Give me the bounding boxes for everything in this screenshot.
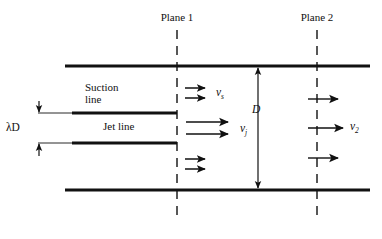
plane-2-flow-arrows bbox=[308, 99, 343, 158]
velocity-vs-label: vs bbox=[216, 86, 224, 101]
jet-flow-arrows bbox=[186, 122, 228, 134]
lambda-d-text: λD bbox=[6, 121, 20, 133]
velocity-vs-subscript: s bbox=[221, 92, 224, 101]
velocity-vj-label: vj bbox=[240, 122, 247, 137]
plane-1-label: Plane 1 bbox=[146, 12, 208, 24]
figure-canvas: Plane 1 Plane 2 Suction line Jet line λD… bbox=[0, 0, 382, 239]
diameter-d-label: D bbox=[252, 103, 260, 115]
velocity-vj-subscript: j bbox=[245, 128, 247, 137]
schematic-drawing bbox=[0, 0, 382, 239]
suction-flow-arrows-bottom bbox=[185, 159, 205, 169]
suction-line-label-row2: line bbox=[85, 94, 102, 106]
suction-flow-arrows-top bbox=[185, 88, 205, 98]
lambda-d-label: λD bbox=[6, 121, 20, 133]
velocity-v2-subscript: 2 bbox=[355, 126, 359, 135]
velocity-v2-label: v2 bbox=[350, 120, 359, 135]
plane-2-label: Plane 2 bbox=[286, 12, 348, 24]
jet-line-label: Jet line bbox=[103, 121, 134, 133]
